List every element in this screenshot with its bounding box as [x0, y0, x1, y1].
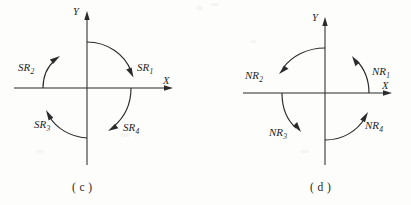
- arc-label-sr2-sub: 2: [31, 67, 35, 76]
- x-axis-d: [243, 90, 392, 95]
- arc-sr3: [46, 110, 87, 138]
- arc-label-nr2: NR2: [245, 70, 263, 81]
- arc-label-sr4-sub: 4: [136, 127, 140, 136]
- x-axis-label-d: X: [382, 81, 388, 92]
- x-axis-c: [14, 85, 173, 90]
- arc-label-nr4-text: NR: [365, 119, 379, 131]
- arc-label-nr1-sub: 1: [386, 71, 390, 80]
- arc-label-nr1-text: NR: [372, 65, 386, 77]
- arc-label-sr2: SR2: [18, 62, 34, 73]
- arc-sr2: [43, 56, 60, 88]
- arc-label-sr2-text: SR: [18, 61, 30, 73]
- panel-caption-d: ( d ): [310, 181, 331, 193]
- panel-d-graphic: [205, 0, 411, 205]
- diagram-panel-d: Y X NR1 NR2 NR3 NR4 ( d ): [205, 0, 411, 205]
- arc-label-nr4-sub: 4: [379, 125, 383, 134]
- arc-label-sr3-text: SR: [34, 118, 46, 130]
- panel-c-graphic: [0, 0, 205, 205]
- arc-label-nr3: NR3: [269, 127, 287, 138]
- arc-nr4: [325, 112, 368, 140]
- y-axis-label-d: Y: [312, 13, 318, 24]
- arc-label-nr3-text: NR: [269, 126, 283, 138]
- arc-label-sr1-sub: 1: [150, 67, 154, 76]
- arc-nr1: [352, 56, 369, 93]
- arc-label-sr3-sub: 3: [47, 124, 51, 133]
- y-axis-label-c: Y: [73, 7, 79, 18]
- arc-label-nr2-sub: 2: [259, 75, 263, 84]
- arc-label-nr3-sub: 3: [283, 132, 287, 141]
- arc-label-sr4: SR4: [123, 122, 139, 133]
- diagram-panel-c: Y X SR1 SR2 SR3 SR4 ( c ): [0, 0, 205, 205]
- arc-label-sr1: SR1: [137, 62, 153, 73]
- arc-label-nr2-text: NR: [245, 69, 259, 81]
- x-axis-label-c: X: [163, 76, 169, 87]
- arc-label-nr4: NR4: [365, 120, 383, 131]
- panel-caption-c: ( c ): [72, 181, 93, 193]
- arc-nr2: [279, 48, 325, 74]
- figure-sheet: Y X SR1 SR2 SR3 SR4 ( c ): [0, 0, 411, 205]
- y-axis-d: [322, 17, 327, 165]
- arc-label-nr1: NR1: [372, 66, 390, 77]
- arc-label-sr1-text: SR: [137, 61, 149, 73]
- arc-label-sr4-text: SR: [123, 121, 135, 133]
- arc-sr1: [87, 42, 134, 78]
- arc-label-sr3: SR3: [34, 119, 50, 130]
